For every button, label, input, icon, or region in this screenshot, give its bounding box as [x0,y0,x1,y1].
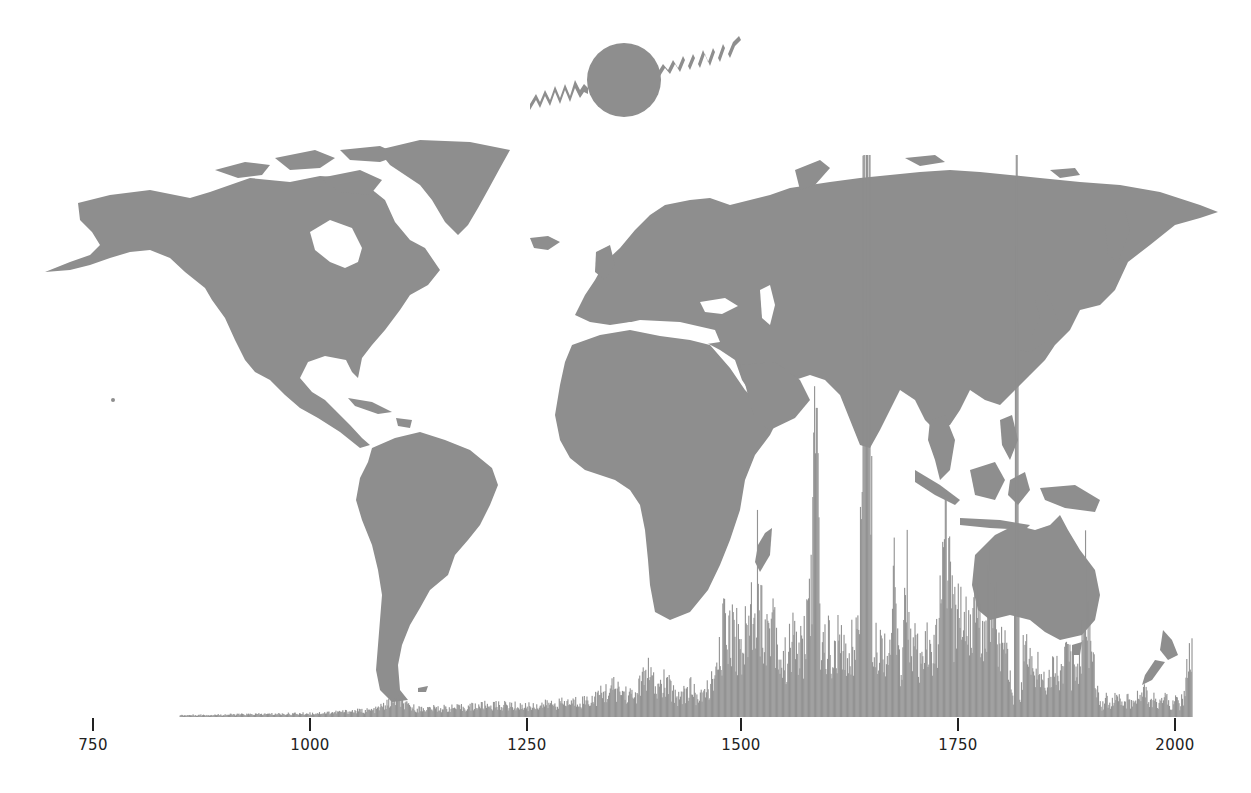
x-tick-label: 1500 [721,736,760,754]
world-map [0,0,1251,793]
x-tick-mark [957,718,959,731]
x-tick-mark [740,718,742,731]
x-tick-mark [526,718,528,731]
x-tick-label: 1750 [938,736,977,754]
globe-with-waves-icon [530,36,741,117]
x-tick-label: 1000 [290,736,329,754]
histogram-bar [1191,638,1192,717]
new-zealand [1160,630,1178,660]
x-tick-label: 2000 [1155,736,1194,754]
x-tick-label: 1250 [507,736,546,754]
x-tick-mark [1174,718,1176,731]
histogram-bar [1018,532,1019,717]
x-tick-mark [92,718,94,731]
continents [45,140,1218,702]
greenland [378,140,510,235]
x-tick-label: 750 [78,736,108,754]
chart-stage: 75010001250150017502000 [0,0,1251,793]
south-america [356,432,498,702]
x-tick-mark [309,718,311,731]
